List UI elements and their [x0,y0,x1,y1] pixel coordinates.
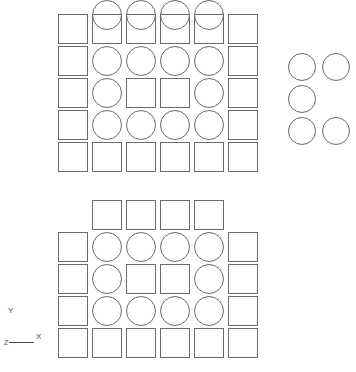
diagram-canvas: YXZ [0,0,356,372]
grid-square[interactable] [228,328,258,358]
grid-square[interactable] [228,232,258,262]
grid-square[interactable] [228,296,258,326]
grid-square[interactable] [194,200,224,230]
grid-square[interactable] [58,264,88,294]
grid-circle[interactable] [92,264,122,294]
grid-circle[interactable] [126,296,156,326]
grid-square[interactable] [92,328,122,358]
cluster-circle[interactable] [322,117,350,145]
grid-circle[interactable] [194,232,224,262]
grid-circle[interactable] [160,232,190,262]
cluster-circle[interactable] [322,53,350,81]
axis-origin-marker: Z [4,339,8,346]
grid-square[interactable] [160,328,190,358]
grid-circle[interactable] [194,264,224,294]
axis-label-y: Y [8,307,13,315]
grid-square[interactable] [58,296,88,326]
grid-square[interactable] [194,328,224,358]
grid-square[interactable] [160,200,190,230]
grid-square[interactable] [126,328,156,358]
grid-square[interactable] [92,200,122,230]
cluster-circle[interactable] [288,85,316,113]
grid-square[interactable] [160,264,190,294]
grid-square[interactable] [58,328,88,358]
cluster-circle[interactable] [288,53,316,81]
grid-square[interactable] [126,264,156,294]
grid-circle[interactable] [92,232,122,262]
grid-square[interactable] [126,200,156,230]
axis-x-line [9,342,34,343]
grid-circle[interactable] [92,296,122,326]
grid-circle[interactable] [160,296,190,326]
cluster-circle[interactable] [288,117,316,145]
grid-circle[interactable] [126,232,156,262]
axis-label-x: X [36,333,41,341]
grid-square[interactable] [58,232,88,262]
grid-square[interactable] [228,264,258,294]
grid-circle[interactable] [194,296,224,326]
